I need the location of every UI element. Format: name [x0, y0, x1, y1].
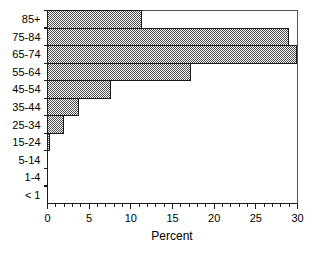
y-tick-label: 65-74: [12, 48, 40, 60]
y-tick-label: 25-34: [12, 119, 40, 131]
y-tick-label: 55-64: [12, 66, 40, 78]
y-tick-label: 85+: [22, 13, 41, 25]
y-tick-label: < 1: [25, 189, 41, 201]
bar-chart: 051015202530 < 11-45-1415-2425-3435-4445…: [0, 0, 313, 253]
x-axis-title: Percent: [151, 229, 193, 243]
x-axis-tick-labels: 051015202530: [44, 212, 303, 224]
y-tick-label: 45-54: [12, 83, 40, 95]
x-tick-label: 25: [250, 212, 262, 224]
y-axis-tick-labels: < 11-45-1415-2425-3435-4445-5455-6465-74…: [12, 13, 40, 200]
x-tick-label: 10: [125, 212, 137, 224]
x-tick-label: 15: [166, 212, 178, 224]
y-tick-label: 1-4: [25, 171, 41, 183]
x-tick-label: 20: [208, 212, 220, 224]
bar: [48, 11, 142, 29]
bars-layer: [48, 11, 297, 151]
y-tick-label: 75-84: [12, 31, 40, 43]
y-tick-label: 15-24: [12, 136, 40, 148]
bar: [48, 98, 79, 116]
bar: [48, 46, 297, 64]
x-tick-label: 0: [44, 212, 50, 224]
x-tick-label: 5: [86, 212, 92, 224]
bar: [48, 116, 64, 134]
bar: [48, 81, 111, 99]
x-axis-ticks: [48, 204, 298, 209]
x-tick-label: 30: [291, 212, 303, 224]
chart-canvas: 051015202530 < 11-45-1415-2425-3435-4445…: [0, 0, 313, 253]
y-tick-label: 35-44: [12, 101, 40, 113]
bar: [48, 28, 289, 46]
bar: [48, 63, 191, 81]
y-tick-label: 5-14: [18, 154, 40, 166]
